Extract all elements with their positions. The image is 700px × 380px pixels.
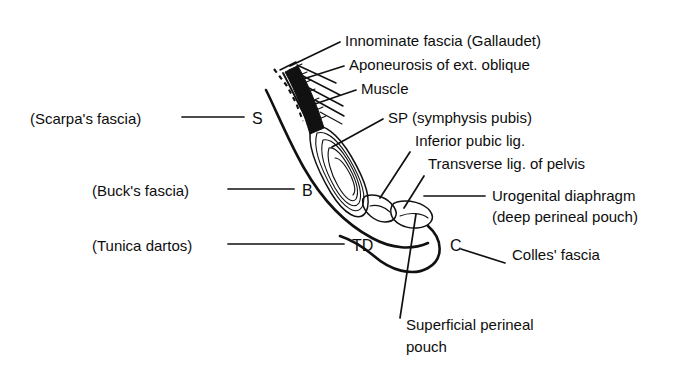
bottom-labels: Superficial perineal pouch [406,316,534,355]
label-inferior-pubic-lig: Inferior pubic lig. [415,132,525,149]
label-transverse-lig-pelvis: Transverse lig. of pelvis [428,155,585,172]
anatomy-drawing [266,62,440,318]
label-urogenital-diaphragm: Urogenital diaphragm [492,187,635,204]
sp-contour-inner [322,140,361,206]
transverse-lig-inner-line [400,214,428,218]
label-deep-perineal-pouch: (deep perineal pouch) [492,208,638,225]
superficial-perineal-pouch-leader [400,214,416,318]
label-bucks-fascia: (Buck's fascia) [92,182,189,199]
pubic-ligament-group [363,195,433,228]
label-tunica-dartos: (Tunica dartos) [92,237,192,254]
symphysis-pubis-group [310,126,368,217]
inferior-pubic-lig-inner-line [370,205,390,212]
anatomical-figure: Innominate fascia (Gallaudet) Aponeurosi… [0,0,700,380]
label-superficial-perineal-pouch-line1: Superficial perineal [406,316,534,333]
marker-s: S [252,110,263,127]
leader-colles-fascia [461,249,505,263]
sp-contour-core [328,148,357,201]
marker-c: C [450,237,462,254]
label-superficial-perineal-pouch-line2: pouch [406,338,447,355]
left-leader-lines [182,117,344,244]
leader-innominate-fascia [290,42,340,66]
leader-aponeurosis [300,66,344,80]
marker-b: B [302,182,313,199]
transverse-lig-shape [391,201,433,228]
label-colles-fascia: Colles' fascia [512,246,601,263]
marker-td: TD [352,237,373,254]
figure-canvas: Innominate fascia (Gallaudet) Aponeurosi… [0,0,700,380]
label-muscle: Muscle [361,80,409,97]
label-symphysis-pubis: SP (symphysis pubis) [388,109,532,126]
left-labels: (Scarpa's fascia) S (Buck's fascia) B (T… [30,110,373,254]
label-scarpas-fascia: (Scarpa's fascia) [30,110,141,127]
leader-inferior-pubic-lig [380,152,410,198]
right-labels: Innominate fascia (Gallaudet) Aponeurosi… [345,32,638,263]
leader-transverse-lig [404,176,424,208]
label-innominate-fascia: Innominate fascia (Gallaudet) [345,32,541,49]
label-aponeurosis-ext-oblique: Aponeurosis of ext. oblique [349,56,530,73]
